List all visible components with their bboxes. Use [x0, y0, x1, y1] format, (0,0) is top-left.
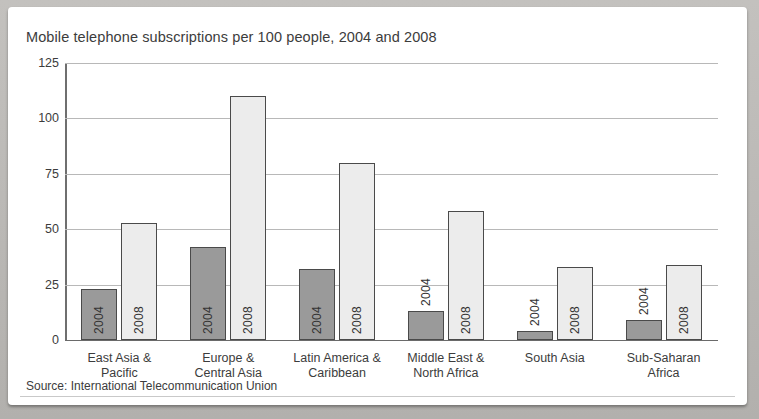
category-label-line: Sub-Saharan: [609, 351, 718, 366]
bar-year-label: 2004: [637, 287, 651, 315]
chart-panel: Mobile telephone subscriptions per 100 p…: [8, 7, 747, 405]
source-note: Source: International Telecommunication …: [26, 379, 277, 393]
y-axis-tick-labels: 0255075100125: [14, 63, 59, 340]
y-axis-tick-100: 100: [19, 111, 59, 125]
category-label: East Asia &Pacific: [65, 351, 174, 381]
source-divider: [20, 396, 735, 397]
bar-group: 20042008: [517, 63, 593, 340]
category-label-line: Europe &: [174, 351, 283, 366]
plot-area: 2004200820042008200420082004200820042008…: [65, 63, 718, 340]
gridline-25: [65, 285, 718, 286]
bar-2004-3[interactable]: [408, 311, 444, 340]
gridline-125: [65, 63, 718, 64]
bar-year-label: 2008: [459, 306, 473, 334]
bar-2004-5[interactable]: [626, 320, 662, 340]
bar-year-label: 2004: [419, 278, 433, 306]
category-label: South Asia: [500, 351, 609, 366]
category-label: Latin America &Caribbean: [283, 351, 392, 381]
bar-group: 20042008: [408, 63, 484, 340]
gridline-100: [65, 118, 718, 119]
page-background: Mobile telephone subscriptions per 100 p…: [0, 0, 759, 419]
bar-2008-1[interactable]: [230, 96, 266, 340]
category-label-line: North Africa: [392, 366, 501, 381]
category-label-line: East Asia &: [65, 351, 174, 366]
y-axis-tick-25: 25: [19, 278, 59, 292]
bar-group: 20042008: [190, 63, 266, 340]
category-label: Sub-SaharanAfrica: [609, 351, 718, 381]
y-axis-tick-75: 75: [19, 167, 59, 181]
bar-group: 20042008: [626, 63, 702, 340]
bar-year-label: 2008: [241, 306, 255, 334]
bar-group: 20042008: [81, 63, 157, 340]
bar-year-label: 2008: [132, 306, 146, 334]
chart-title: Mobile telephone subscriptions per 100 p…: [26, 29, 437, 45]
bar-group: 20042008: [299, 63, 375, 340]
y-axis-tick-125: 125: [19, 56, 59, 70]
category-label-line: Middle East &: [392, 351, 501, 366]
category-label-line: Caribbean: [283, 366, 392, 381]
bar-year-label: 2004: [201, 306, 215, 334]
category-label-line: Latin America &: [283, 351, 392, 366]
gridline-75: [65, 174, 718, 175]
bar-year-label: 2004: [528, 298, 542, 326]
bar-year-label: 2004: [92, 306, 106, 334]
gridline-0: [65, 340, 718, 341]
y-axis-tick-50: 50: [19, 222, 59, 236]
bar-2004-4[interactable]: [517, 331, 553, 340]
category-label: Europe &Central Asia: [174, 351, 283, 381]
gridline-50: [65, 229, 718, 230]
bar-year-label: 2008: [350, 306, 364, 334]
category-label: Middle East &North Africa: [392, 351, 501, 381]
bar-year-label: 2004: [310, 306, 324, 334]
category-label-line: South Asia: [500, 351, 609, 366]
bar-year-label: 2008: [568, 306, 582, 334]
category-label-line: Africa: [609, 366, 718, 381]
y-axis-tick-0: 0: [19, 333, 59, 347]
bar-year-label: 2008: [677, 306, 691, 334]
